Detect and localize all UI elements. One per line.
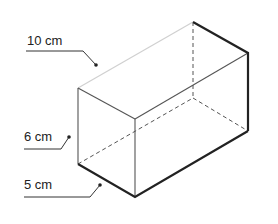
top-back-edge <box>78 22 193 88</box>
hidden-edges <box>78 22 248 164</box>
top-front-edge <box>135 53 248 119</box>
leader-dot-length <box>94 63 98 67</box>
label-length: 10 cm <box>27 33 62 48</box>
leader-dot-height <box>67 135 71 139</box>
outline-edges <box>78 22 248 197</box>
leader-dot-width <box>98 183 102 187</box>
bottom-outline <box>78 131 248 197</box>
hidden-edge-back <box>193 98 248 131</box>
leader-length <box>26 51 96 65</box>
prism-diagram: 10 cm 6 cm 5 cm <box>0 0 278 224</box>
visible-edges <box>78 53 248 197</box>
label-width: 5 cm <box>24 177 52 192</box>
top-right-outline <box>193 22 248 131</box>
label-height: 6 cm <box>24 129 52 144</box>
front-top-edge <box>78 88 135 119</box>
